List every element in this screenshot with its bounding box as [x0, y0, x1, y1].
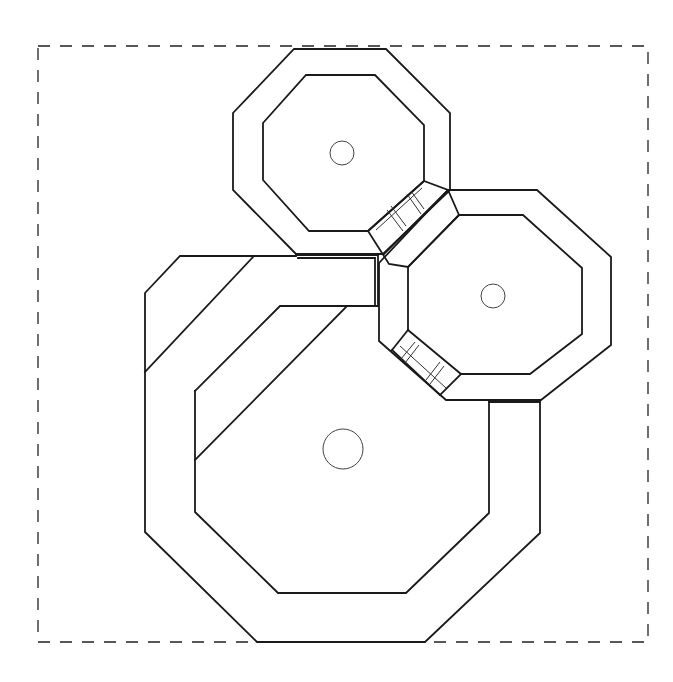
- large-octagon-inner-wall: [195, 391, 489, 593]
- floor-plan-svg: [0, 0, 673, 682]
- passage-right-edge: [392, 330, 408, 350]
- stair-tread: [401, 342, 415, 359]
- stair-tread: [411, 191, 424, 209]
- passage-right-outer: [392, 350, 440, 395]
- floor-plan-canvas: architectural-floor-plan: [0, 0, 673, 682]
- large-octagon-room: [145, 255, 540, 642]
- large-octagon-column: [323, 429, 363, 469]
- right-octagon-room: [379, 190, 611, 400]
- stair-tread: [405, 345, 419, 363]
- site-boundary: [38, 46, 648, 642]
- large-octagon-outer-wall: [145, 256, 540, 642]
- right-octagon-column: [481, 284, 505, 308]
- diagonal-wall-inner: [195, 307, 346, 460]
- right-octagon-outer-wall: [379, 190, 611, 400]
- right-octagon-inner-wall: [408, 215, 582, 374]
- top-octagon-column: [330, 141, 354, 165]
- diagonal-wall-outer: [145, 256, 254, 372]
- corridor-top-inner: [195, 306, 378, 391]
- stair-rail: [400, 346, 446, 388]
- stair-tread: [407, 194, 421, 214]
- passage-right-edge: [440, 374, 461, 395]
